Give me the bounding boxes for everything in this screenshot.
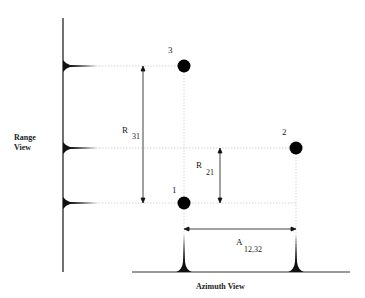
a1232-symbol: A	[236, 237, 243, 247]
r31-arrow	[141, 66, 145, 203]
r21-arrow	[218, 148, 222, 203]
azimuth-peak-1	[176, 234, 192, 272]
range-peak-1	[63, 197, 99, 209]
range-view-label-2: View	[14, 143, 31, 153]
r21-subscript: 21	[206, 168, 214, 177]
range-peak-3	[63, 60, 99, 72]
point-1-label: 1	[172, 185, 177, 195]
azimuth-peak-2	[288, 234, 304, 272]
point-2	[290, 142, 303, 155]
range-azimuth-diagram: Range View 3 2 1 R 31 R 21 A 12,32 Azimu…	[0, 0, 365, 298]
point-3	[178, 60, 191, 73]
azimuth-view-label: Azimuth View	[196, 282, 245, 292]
a1232-subscript: 12,32	[244, 245, 262, 254]
point-3-label: 3	[168, 45, 173, 55]
r21-symbol: R	[196, 160, 202, 170]
a1232-arrow	[184, 227, 296, 231]
point-2-label: 2	[282, 127, 287, 137]
r31-subscript: 31	[132, 132, 140, 141]
range-view-label-1: Range	[14, 133, 36, 143]
r31-symbol: R	[122, 125, 128, 135]
point-1	[178, 197, 191, 210]
diagram-graphics	[0, 0, 365, 298]
range-peak-2	[63, 142, 99, 154]
